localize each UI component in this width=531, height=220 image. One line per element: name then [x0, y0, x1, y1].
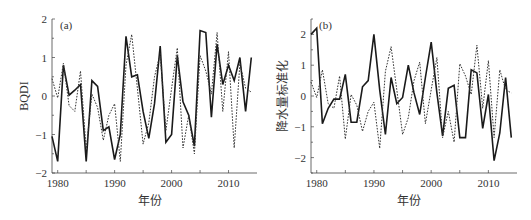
y-axis-label: BQDI: [17, 81, 31, 110]
x-tick-label: 2000: [161, 177, 184, 189]
y-tick-label: 0: [42, 90, 48, 102]
x-tick-label: 1980: [306, 177, 329, 189]
figure: −2−10121980199020002010年份BQDI(a) −2−1012…: [0, 0, 531, 220]
panel-label: (a): [60, 19, 73, 32]
series-dashed-line: [311, 45, 511, 148]
series-solid-line: [311, 28, 511, 161]
y-tick-label: 1: [301, 59, 307, 71]
y-tick-label: −2: [294, 152, 306, 164]
x-axis-label: 年份: [138, 194, 162, 208]
y-axis-label: 降水量标准化: [276, 60, 290, 132]
x-tick-label: 1990: [363, 177, 386, 189]
y-tick-label: 0: [301, 90, 307, 102]
y-tick-label: 2: [42, 13, 48, 25]
y-tick-label: −1: [294, 121, 306, 133]
y-tick-label: −1: [35, 129, 47, 141]
panel-b: −2−10121980199020002010年份降水量标准化(b): [276, 19, 517, 208]
y-tick-label: 1: [42, 52, 48, 64]
x-tick-label: 2010: [218, 177, 241, 189]
panel-a: −2−10121980199020002010年份BQDI(a): [17, 13, 257, 208]
x-axis-label: 年份: [397, 194, 421, 208]
panel-label: (b): [319, 19, 332, 32]
y-tick-label: 2: [301, 28, 307, 40]
y-tick-label: −2: [35, 167, 47, 179]
x-tick-label: 2010: [477, 177, 500, 189]
x-tick-label: 1980: [47, 177, 70, 189]
x-tick-label: 1990: [104, 177, 127, 189]
x-tick-label: 2000: [420, 177, 443, 189]
